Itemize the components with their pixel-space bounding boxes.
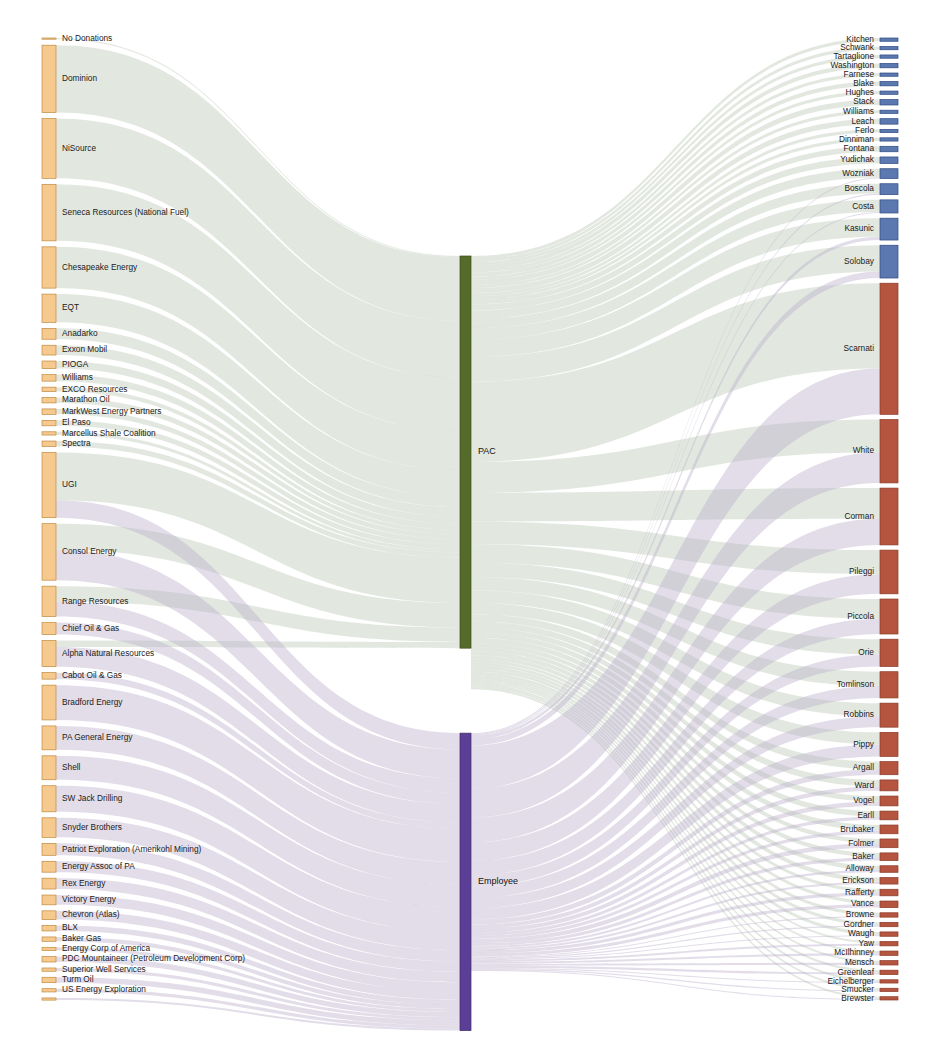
recipient-node[interactable] (880, 184, 898, 195)
recipient-node[interactable] (880, 951, 898, 955)
node-label: Tomlinson (837, 679, 875, 689)
donor-node[interactable] (42, 623, 56, 635)
recipient-node[interactable] (880, 91, 898, 94)
node-label: Alpha Natural Resources (62, 648, 154, 658)
donor-node[interactable] (42, 843, 56, 855)
recipient-node[interactable] (880, 157, 898, 164)
donor-node[interactable] (42, 818, 56, 838)
node-label: Ward (854, 780, 874, 790)
recipient-node[interactable] (880, 46, 898, 49)
recipient-node[interactable] (880, 129, 898, 132)
node-label: Yaw (858, 938, 875, 948)
donor-node[interactable] (42, 895, 56, 905)
recipient-node[interactable] (880, 672, 898, 698)
donor-node[interactable] (42, 926, 56, 931)
donor-node[interactable] (42, 977, 56, 982)
donor-node[interactable] (42, 641, 56, 667)
donor-node[interactable] (42, 452, 56, 517)
donor-node[interactable] (42, 247, 56, 288)
recipient-node[interactable] (880, 980, 898, 983)
recipient-node[interactable] (880, 901, 898, 908)
recipient-node[interactable] (880, 488, 898, 545)
recipient-node[interactable] (880, 796, 898, 806)
donor-node[interactable] (42, 387, 56, 391)
donor-node[interactable] (42, 878, 56, 889)
recipient-node[interactable] (880, 119, 898, 124)
donor-node[interactable] (42, 786, 56, 812)
recipient-node[interactable] (880, 853, 898, 861)
recipient-node[interactable] (880, 703, 898, 727)
recipient-node[interactable] (880, 169, 898, 179)
recipient-node[interactable] (880, 941, 898, 945)
recipient-node[interactable] (880, 970, 898, 974)
donor-node[interactable] (42, 998, 56, 1000)
donor-node[interactable] (42, 45, 56, 112)
donor-node[interactable] (42, 184, 56, 241)
donor-node[interactable] (42, 524, 56, 581)
donor-node[interactable] (42, 328, 56, 339)
flow-employee-to-recipient (471, 970, 880, 1000)
recipient-node[interactable] (880, 932, 898, 936)
recipient-node[interactable] (880, 811, 898, 820)
recipient-node[interactable] (880, 922, 898, 926)
recipient-node[interactable] (880, 245, 898, 278)
donor-node[interactable] (42, 38, 56, 39)
node-label: Orie (858, 647, 874, 657)
donor-node[interactable] (42, 673, 56, 680)
recipient-node[interactable] (880, 110, 898, 113)
recipient-node[interactable] (880, 878, 898, 885)
donor-node[interactable] (42, 957, 56, 962)
donor-node[interactable] (42, 119, 56, 179)
donor-node[interactable] (42, 294, 56, 322)
recipient-node[interactable] (880, 732, 898, 756)
donor-node[interactable] (42, 361, 56, 369)
recipient-node[interactable] (880, 218, 898, 240)
donor-node[interactable] (42, 685, 56, 720)
recipient-node[interactable] (880, 63, 898, 67)
donor-node[interactable] (42, 375, 56, 382)
recipient-node[interactable] (880, 639, 898, 666)
recipient-node[interactable] (880, 825, 898, 834)
donor-node[interactable] (42, 947, 56, 950)
donor-node[interactable] (42, 397, 56, 402)
recipient-node[interactable] (880, 599, 898, 634)
donor-node[interactable] (42, 756, 56, 780)
recipient-node[interactable] (880, 55, 898, 58)
donor-node[interactable] (42, 911, 56, 920)
donor-node[interactable] (42, 968, 56, 971)
recipient-node[interactable] (880, 961, 898, 965)
recipient-node[interactable] (880, 550, 898, 594)
recipient-node[interactable] (880, 839, 898, 848)
recipient-node[interactable] (880, 420, 898, 483)
recipient-node[interactable] (880, 81, 898, 85)
recipient-node[interactable] (880, 780, 898, 791)
recipient-node[interactable] (880, 146, 898, 151)
recipient-node[interactable] (880, 138, 898, 141)
recipient-node[interactable] (880, 100, 898, 105)
node-label: Gordner (844, 919, 875, 929)
node-label: BLX (62, 922, 78, 932)
recipient-node[interactable] (880, 913, 898, 917)
donor-node[interactable] (42, 420, 56, 425)
recipient-node[interactable] (880, 889, 898, 896)
donor-node[interactable] (42, 586, 56, 616)
donor-node[interactable] (42, 726, 56, 750)
recipient-node[interactable] (880, 988, 898, 991)
recipient-node[interactable] (880, 997, 898, 1000)
donor-node[interactable] (42, 441, 56, 446)
donor-node[interactable] (42, 861, 56, 872)
node-label: Pileggi (849, 566, 874, 576)
recipient-node[interactable] (880, 38, 898, 41)
donor-node[interactable] (42, 937, 56, 941)
donor-node[interactable] (42, 345, 56, 355)
pac-node[interactable] (460, 256, 471, 648)
recipient-node[interactable] (880, 200, 898, 213)
recipient-node[interactable] (880, 73, 898, 76)
employee-node[interactable] (460, 733, 471, 1030)
donor-node[interactable] (42, 989, 56, 992)
recipient-node[interactable] (880, 283, 898, 414)
donor-node[interactable] (42, 409, 56, 414)
donor-node[interactable] (42, 432, 56, 435)
recipient-node[interactable] (880, 866, 898, 873)
recipient-node[interactable] (880, 762, 898, 775)
